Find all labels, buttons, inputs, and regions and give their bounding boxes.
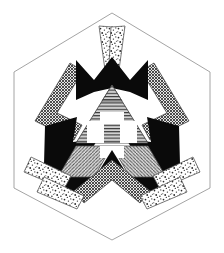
core-cut-center-top <box>100 112 124 124</box>
core-cut-left <box>87 121 104 143</box>
emblem-illustration <box>0 0 224 253</box>
core-cut-right <box>120 121 137 143</box>
artboard <box>0 0 224 253</box>
